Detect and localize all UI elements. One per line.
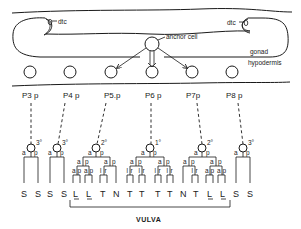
fate-16: S xyxy=(233,189,239,199)
svg-text:l: l xyxy=(100,167,102,174)
vulva-bracket xyxy=(70,200,230,207)
svg-text:p: p xyxy=(211,167,215,175)
signal-arrow-p7 xyxy=(158,48,187,68)
label-p8p: P8 p xyxy=(226,91,243,100)
dtc-right-nucleus xyxy=(244,20,248,25)
svg-text:a: a xyxy=(141,149,145,156)
p6p-cell xyxy=(146,66,158,78)
fate-6: T xyxy=(100,189,106,199)
svg-text:p: p xyxy=(191,158,195,166)
lineage-p7p: 2° a p a p l r a p a p a p xyxy=(183,139,227,183)
svg-text:r: r xyxy=(159,167,162,174)
svg-text:a: a xyxy=(205,167,209,174)
lineage-p6p: 1° a p a p l r l r a p l r l r xyxy=(127,139,174,183)
svg-text:a: a xyxy=(88,149,92,156)
svg-text:a: a xyxy=(210,158,214,165)
anchor-cell-label: anchor cell xyxy=(166,33,198,40)
lineage-dash-p5 xyxy=(97,103,106,144)
fate-17: S xyxy=(247,189,253,199)
fate-8: T xyxy=(127,189,133,199)
p3p-cell xyxy=(24,66,36,78)
gonad-label: gonad xyxy=(250,48,268,56)
p7p-cell xyxy=(186,66,198,78)
svg-text:p: p xyxy=(153,149,157,157)
svg-text:p: p xyxy=(166,158,170,166)
pnp-cells-row xyxy=(24,66,238,78)
p8p-cell xyxy=(226,66,238,78)
anchor-cell-pointer xyxy=(158,37,165,40)
svg-text:1°: 1° xyxy=(155,139,162,146)
svg-text:p: p xyxy=(90,167,94,175)
svg-text:p: p xyxy=(206,149,210,157)
lineage-dash-p4 xyxy=(58,103,65,144)
svg-text:l: l xyxy=(192,167,194,174)
signal-arrow-p5 xyxy=(117,48,146,68)
svg-text:a: a xyxy=(183,158,187,165)
dtc-left-label: dtc xyxy=(58,18,67,25)
svg-text:p: p xyxy=(85,158,89,166)
fate-1: S xyxy=(35,189,41,199)
svg-text:a: a xyxy=(84,167,88,174)
svg-text:l: l xyxy=(127,167,129,174)
dtc-right-label: dtc xyxy=(227,19,236,26)
p5p-cell xyxy=(105,66,117,78)
svg-text:2°: 2° xyxy=(207,139,214,146)
fate-13: T xyxy=(193,189,199,199)
svg-text:p: p xyxy=(138,158,142,166)
svg-text:a: a xyxy=(77,158,81,165)
fate-15: L xyxy=(220,189,225,199)
label-p7p: P7p xyxy=(186,91,201,100)
fate-11: T xyxy=(167,189,173,199)
vulva-label: VULVA xyxy=(136,216,161,223)
svg-text:a: a xyxy=(194,149,198,156)
terminal-fates-row: S S S S L L T N T T T T N T L L S S xyxy=(21,189,253,199)
body-wall-top xyxy=(12,9,292,13)
lineage-p5p: 2° a p a p a p a p a p l r xyxy=(72,139,116,183)
svg-text:a: a xyxy=(22,149,26,156)
fate-10: T xyxy=(155,189,161,199)
fate-14: L xyxy=(207,189,212,199)
fate-2: S xyxy=(47,189,53,199)
body-wall-bottom xyxy=(12,82,290,86)
svg-text:l: l xyxy=(155,167,157,174)
svg-text:p: p xyxy=(218,158,222,166)
svg-text:r: r xyxy=(105,167,108,174)
svg-text:p: p xyxy=(100,149,104,157)
anchor-cell xyxy=(145,37,159,51)
fate-3: S xyxy=(61,189,67,199)
svg-text:p: p xyxy=(34,149,38,157)
svg-text:a: a xyxy=(48,149,52,156)
fate-7: N xyxy=(113,189,120,199)
fate-4: L xyxy=(73,189,78,199)
svg-text:a: a xyxy=(130,158,134,165)
svg-text:r: r xyxy=(143,167,146,174)
lineage-p3p: 3° a p xyxy=(22,139,43,183)
svg-text:l: l xyxy=(167,167,169,174)
svg-text:3°: 3° xyxy=(36,139,43,146)
gonad-arm-left xyxy=(46,31,250,35)
lineage-dash-p7 xyxy=(197,103,202,144)
fate-0: S xyxy=(21,189,27,199)
svg-text:r: r xyxy=(196,167,199,174)
svg-text:p: p xyxy=(246,149,250,157)
fate-5: L xyxy=(86,189,91,199)
svg-text:r: r xyxy=(171,167,174,174)
svg-text:3°: 3° xyxy=(62,139,69,146)
svg-text:p: p xyxy=(78,167,82,175)
svg-text:p: p xyxy=(112,158,116,166)
svg-text:a: a xyxy=(217,167,221,174)
label-p6p: P6 p xyxy=(145,91,162,100)
label-p5p: P5.p xyxy=(104,91,121,100)
svg-text:r: r xyxy=(131,167,134,174)
label-p4p: P4 p xyxy=(63,91,80,100)
svg-text:3°: 3° xyxy=(248,139,255,146)
svg-text:a: a xyxy=(72,167,76,174)
p4p-cell xyxy=(64,66,76,78)
svg-text:a: a xyxy=(158,158,162,165)
svg-text:a: a xyxy=(234,149,238,156)
fate-12: N xyxy=(180,189,187,199)
svg-text:p: p xyxy=(223,167,227,175)
svg-text:p: p xyxy=(60,149,64,157)
fate-9: T xyxy=(139,189,145,199)
svg-text:a: a xyxy=(104,158,108,165)
